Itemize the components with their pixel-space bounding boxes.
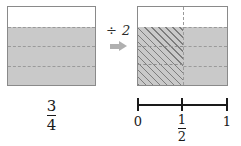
number-line: 0 1 2 1 <box>137 96 228 142</box>
left-area-model-rectangle <box>7 6 96 86</box>
left-band-2-shaded <box>8 46 95 66</box>
right-arrow-icon <box>110 41 128 52</box>
fraction-denominator: 4 <box>47 117 57 133</box>
number-line-tick-half <box>181 98 183 111</box>
half-numerator: 1 <box>178 113 186 127</box>
number-line-label-0: 0 <box>125 115 151 129</box>
label-one-text: 1 <box>223 114 231 129</box>
number-line-label-half: 1 2 <box>169 113 195 144</box>
number-line-tick-1 <box>226 98 228 111</box>
number-line-label-1: 1 <box>214 115 240 129</box>
number-line-tick-0 <box>137 98 139 111</box>
right-area-model-rectangle <box>137 6 228 86</box>
hatched-region <box>138 27 183 86</box>
fraction-one-half: 1 2 <box>178 113 186 144</box>
divide-operator-group: ÷ 2 <box>102 24 135 52</box>
left-band-1-shaded <box>8 27 95 47</box>
divide-by-two-label: ÷ 2 <box>102 24 135 38</box>
half-denominator: 2 <box>178 130 186 144</box>
fraction-numerator: 3 <box>47 98 57 114</box>
left-fraction-label: 3 4 <box>7 98 96 134</box>
left-band-0-unshaded <box>8 7 95 27</box>
left-band-3-shaded <box>8 66 95 86</box>
fraction-three-quarters: 3 4 <box>47 98 57 133</box>
figure-canvas: ÷ 2 3 4 0 1 <box>0 0 241 146</box>
arrow-head <box>119 41 127 51</box>
vertical-dashed-divider <box>183 7 184 85</box>
label-zero-text: 0 <box>134 114 142 129</box>
